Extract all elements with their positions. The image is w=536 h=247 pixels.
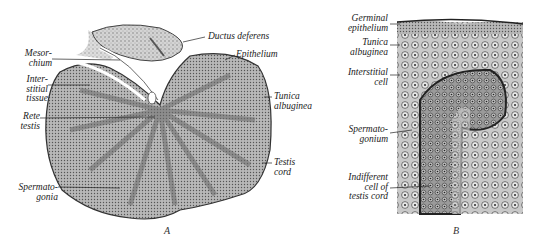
label-mesorchium: Mesor- chium (8, 49, 52, 68)
label-spermatogonia: Spermato- gonia (4, 183, 58, 202)
label-rete-testis: Rete testis (0, 112, 40, 131)
label-germinal-epithelium: Germinal epithelium (318, 14, 388, 33)
label-testis-cord: Testis cord (274, 158, 295, 177)
caption-panel-b: B (453, 225, 459, 236)
label-epithelium: Epithelium (236, 50, 278, 60)
label-spermatogonium: Spermato- gonium (318, 125, 388, 144)
label-interstitial-tissue: Inter- stitial tissue (4, 75, 48, 104)
label-tunica-albuginea-b: Tunica albuginea (318, 38, 388, 57)
caption-panel-a: A (164, 225, 170, 236)
label-tunica-albuginea: Tunica albuginea (274, 92, 312, 111)
label-interstitial-cell: Interstitial cell (318, 68, 388, 87)
label-indifferent-cell: Indifferent cell of testis cord (318, 173, 388, 202)
testis-histology-figure: Ductus deferens Epithelium Mesor- chium … (0, 0, 536, 247)
panel-b-artwork (397, 19, 523, 214)
label-ductus-deferens: Ductus deferens (208, 32, 269, 42)
